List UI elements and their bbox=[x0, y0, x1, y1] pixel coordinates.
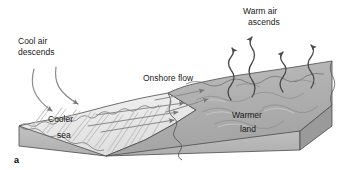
warmer-land-label-line2: land bbox=[240, 124, 256, 134]
sea-breeze-figure: Cool air descends Warm air ascends Onsho… bbox=[0, 0, 350, 170]
cool-air-label-line1: Cool air bbox=[18, 36, 47, 46]
cool-air-label-line2: descends bbox=[18, 47, 54, 57]
warmer-land-label-line1: Warmer bbox=[232, 110, 262, 120]
onshore-flow-label: Onshore flow bbox=[143, 73, 194, 83]
panel-letter: a bbox=[14, 155, 20, 165]
cooler-sea-label-line1: Cooler bbox=[48, 114, 73, 124]
cooler-sea-label-line2: sea bbox=[57, 130, 71, 140]
sea-breeze-diagram-svg: Cool air descends Warm air ascends Onsho… bbox=[0, 0, 350, 170]
descending-air-arrows bbox=[32, 67, 78, 111]
warm-air-label-line2: ascends bbox=[248, 17, 280, 27]
descending-arrow-2 bbox=[56, 67, 78, 104]
warm-air-label-line1: Warm air bbox=[243, 6, 277, 16]
descending-arrow-1 bbox=[32, 69, 52, 111]
